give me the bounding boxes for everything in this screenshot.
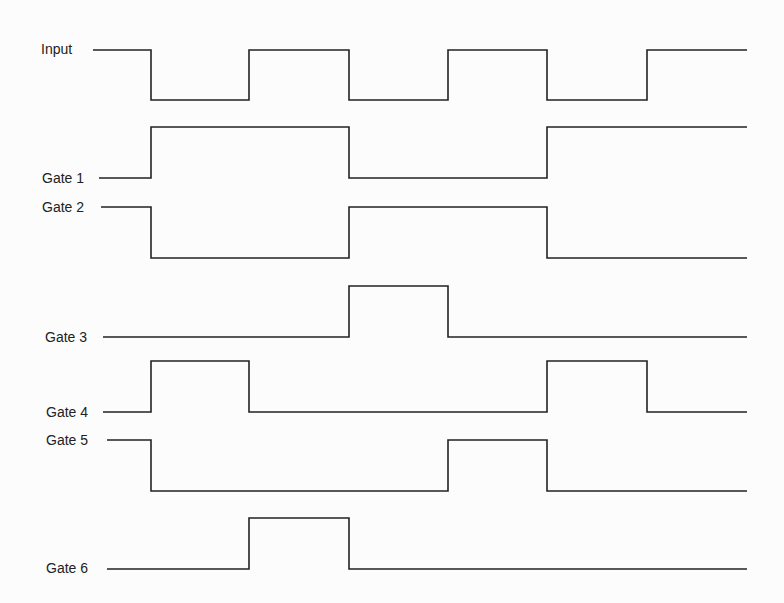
waveform-gate-1 (99, 127, 747, 178)
signal-label-gate-2: Gate 2 (42, 199, 84, 215)
signal-label-gate-3: Gate 3 (45, 329, 87, 345)
signal-label-gate-1: Gate 1 (42, 170, 84, 186)
waveform-canvas (0, 0, 784, 603)
signal-label-gate-5: Gate 5 (46, 432, 88, 448)
waveform-gate-2 (101, 207, 747, 258)
signal-label-input: Input (41, 41, 72, 57)
waveform-gate-5 (107, 440, 747, 491)
signal-label-gate-4: Gate 4 (46, 404, 88, 420)
timing-diagram: InputGate 1Gate 2Gate 3Gate 4Gate 5Gate … (0, 0, 784, 603)
waveform-gate-6 (107, 518, 747, 569)
waveform-input (93, 50, 747, 100)
signal-label-gate-6: Gate 6 (46, 560, 88, 576)
waveform-gate-3 (103, 286, 747, 337)
waveform-gate-4 (103, 361, 747, 412)
